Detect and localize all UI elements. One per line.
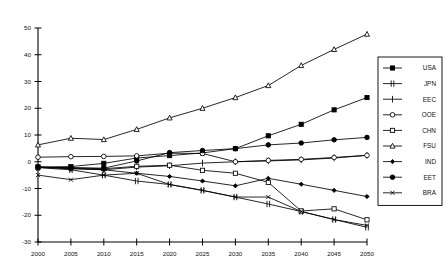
x-tick-label: 2015	[130, 250, 144, 257]
series-layer	[36, 31, 370, 230]
marker-small-diamond	[332, 188, 336, 192]
marker-open-circle	[299, 157, 304, 162]
legend-label: EEC	[423, 96, 437, 103]
legend-label: IND	[425, 158, 436, 165]
marker-filled-square	[102, 161, 106, 165]
marker-filled-circle	[69, 165, 74, 170]
marker-filled-circle	[390, 175, 395, 180]
marker-open-circle	[365, 153, 370, 158]
marker-open-triangle	[266, 83, 271, 88]
marker-small-diamond	[200, 179, 204, 183]
x-tick-label: 2040	[294, 250, 308, 257]
y-tick-label: 30	[24, 78, 31, 85]
y-tick-label: 10	[24, 131, 31, 138]
legend-label: JPN	[424, 80, 436, 87]
marker-open-square	[332, 207, 336, 211]
x-tick-label: 2005	[64, 250, 78, 257]
legend-label: USA	[423, 64, 437, 71]
x-tick-label: 2000	[31, 250, 45, 257]
marker-open-circle	[266, 158, 271, 163]
line-chart: 50403020100-10-20-30 2000200520102015202…	[0, 0, 446, 275]
marker-filled-circle	[332, 138, 337, 143]
marker-open-triangle	[332, 47, 337, 52]
marker-open-square	[200, 168, 204, 172]
legend-label: OOE	[422, 111, 436, 118]
marker-open-triangle	[299, 63, 304, 68]
legend-label: CHN	[422, 127, 436, 134]
marker-open-triangle	[365, 31, 370, 36]
marker-filled-circle	[167, 150, 172, 155]
marker-open-square	[390, 128, 394, 132]
y-tick-label: -20	[22, 211, 32, 218]
marker-open-circle	[332, 155, 337, 160]
marker-filled-circle	[134, 159, 139, 164]
marker-open-circle	[134, 154, 139, 159]
marker-open-square	[365, 218, 369, 222]
y-axis: 50403020100-10-20-30	[22, 24, 41, 245]
series-fsu	[36, 31, 370, 147]
marker-small-diamond	[233, 184, 237, 188]
x-tick-label: 2035	[261, 250, 275, 257]
chart-legend: USAJPNEECOOECHNFSUINDEETBRA	[378, 57, 442, 205]
marker-open-circle	[36, 155, 41, 160]
x-tick-label: 2030	[229, 250, 243, 257]
y-tick-label: 20	[24, 104, 31, 111]
x-tick-label: 2025	[196, 250, 210, 257]
marker-small-diamond	[168, 174, 172, 178]
y-tick-label: 50	[24, 24, 31, 31]
marker-filled-square	[299, 122, 303, 126]
marker-filled-circle	[36, 165, 41, 170]
marker-open-square	[168, 163, 172, 167]
marker-filled-circle	[200, 148, 205, 153]
marker-filled-circle	[266, 143, 271, 148]
marker-open-square	[233, 171, 237, 175]
x-tick-label: 2050	[360, 250, 374, 257]
y-tick-label: -10	[22, 185, 32, 192]
y-tick-label: -30	[22, 238, 32, 245]
x-axis: 2000200520102015202020252030203520402045…	[31, 239, 374, 258]
marker-open-square	[135, 164, 139, 168]
marker-open-circle	[233, 159, 238, 164]
marker-filled-circle	[299, 141, 304, 146]
legend-label: BRA	[423, 189, 437, 196]
marker-filled-circle	[233, 146, 238, 151]
marker-open-circle	[102, 154, 107, 159]
marker-filled-square	[390, 66, 394, 70]
marker-open-circle	[390, 113, 395, 118]
chart-canvas: 50403020100-10-20-30 2000200520102015202…	[0, 0, 446, 275]
y-tick-label: 40	[24, 51, 31, 58]
marker-small-diamond	[365, 194, 369, 198]
x-tick-label: 2020	[163, 250, 177, 257]
x-tick-label: 2010	[97, 250, 111, 257]
marker-open-circle	[69, 154, 74, 159]
marker-filled-circle	[102, 166, 107, 171]
legend-label: EET	[424, 174, 437, 181]
legend-label: FSU	[423, 142, 436, 149]
marker-small-diamond	[266, 176, 270, 180]
marker-filled-square	[365, 95, 369, 99]
marker-small-diamond	[299, 182, 303, 186]
marker-filled-square	[332, 108, 336, 112]
marker-filled-square	[266, 134, 270, 138]
y-tick-label: 0	[28, 158, 32, 165]
series-jpn	[37, 164, 369, 230]
marker-filled-circle	[365, 135, 370, 140]
x-tick-label: 2045	[327, 250, 341, 257]
